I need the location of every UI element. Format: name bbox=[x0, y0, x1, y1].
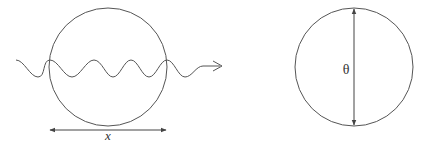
left-figure: x bbox=[16, 8, 222, 141]
left-circle bbox=[49, 8, 167, 126]
right-figure: θ bbox=[295, 8, 413, 126]
angle-label: θ bbox=[343, 62, 350, 77]
diagram-canvas: x θ bbox=[0, 0, 421, 141]
width-label: x bbox=[104, 128, 111, 141]
wave-line bbox=[16, 60, 220, 77]
